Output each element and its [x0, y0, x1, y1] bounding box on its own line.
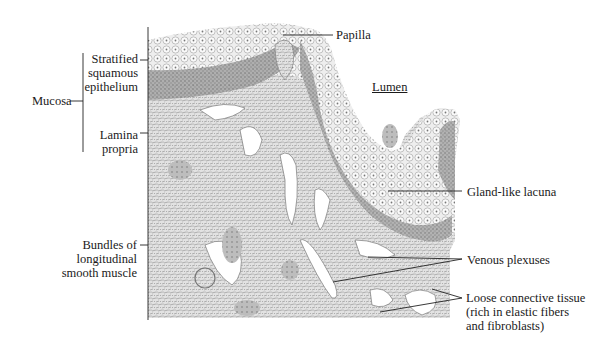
label-lumen: Lumen — [372, 80, 407, 94]
label-papilla: Papilla — [336, 28, 371, 42]
histology-figure: Mucosa Stratified squamous epithelium La… — [0, 0, 608, 347]
label-lamina-propria: Lamina propria — [84, 128, 138, 156]
label-line: epithelium — [84, 80, 138, 94]
label-loose-connective-tissue: Loose connective tissue (rich in elastic… — [466, 291, 585, 333]
label-line: longitudinal — [40, 252, 137, 266]
label-line: Stratified — [84, 52, 138, 66]
label-line: Loose connective tissue — [466, 291, 585, 305]
label-line: (rich in elastic fibers — [466, 305, 585, 319]
label-line: squamous — [84, 66, 138, 80]
label-line: Lamina — [84, 128, 138, 142]
label-stratified-squamous-epithelium: Stratified squamous epithelium — [84, 52, 138, 94]
label-gland-like-lacuna: Gland-like lacuna — [467, 185, 556, 199]
label-mucosa: Mucosa — [32, 94, 72, 108]
label-line: propria — [84, 142, 138, 156]
label-line: and fibroblasts) — [466, 319, 585, 333]
label-line: Bundles of — [40, 238, 137, 252]
label-smooth-muscle: Bundles of longitudinal smooth muscle — [40, 238, 137, 280]
label-line: smooth muscle — [40, 266, 137, 280]
label-venous-plexuses: Venous plexuses — [467, 253, 550, 267]
